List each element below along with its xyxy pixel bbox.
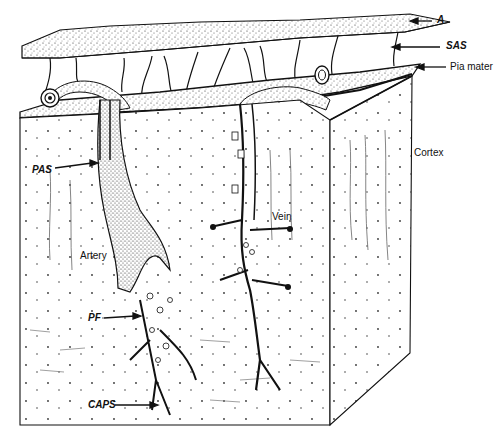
label-subarachnoid-space: SAS	[446, 40, 467, 51]
label-pial-funnel: PF	[88, 312, 101, 323]
label-vein: Vein	[272, 211, 291, 222]
label-capillaries: CAPS	[88, 399, 116, 410]
label-arachnoid: A	[437, 14, 444, 25]
label-pia-mater: Pia mater	[450, 61, 493, 72]
cortex-block	[20, 76, 412, 425]
label-perivascular-space: PAS	[32, 164, 52, 175]
label-artery: Artery	[80, 250, 107, 261]
label-cortex: Cortex	[414, 147, 443, 158]
arachnoid-layer	[22, 14, 450, 58]
diagram-drawing	[0, 0, 495, 443]
cortex-diagram: A SAS Pia mater Cortex PAS Artery Vein P…	[0, 0, 495, 443]
